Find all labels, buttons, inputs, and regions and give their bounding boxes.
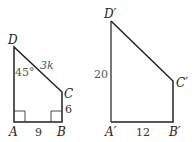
vertex-label-a: A <box>8 125 18 139</box>
side-label-cd: 3k <box>40 59 54 72</box>
figure-abcd: D C A B 45° 3k 6 9 <box>7 33 73 139</box>
figure-abcd-prime: D′ C′ A′ B′ 20 12 <box>94 7 188 139</box>
right-angle-marker-b <box>51 111 62 122</box>
vertex-label-b: B <box>56 125 66 139</box>
angle-label-d: 45° <box>15 66 35 79</box>
vertex-label-c-prime: C′ <box>176 76 188 90</box>
right-angle-marker-a <box>14 111 25 122</box>
vertex-label-d: D <box>7 33 18 47</box>
side-label-ad-prime: 20 <box>94 68 108 81</box>
side-label-ab: 9 <box>35 126 42 139</box>
side-label-ab-prime: 12 <box>136 126 150 139</box>
side-label-bc: 6 <box>65 103 72 116</box>
similar-quadrilaterals-diagram: D C A B 45° 3k 6 9 D′ C′ A′ B′ 20 12 <box>0 0 196 142</box>
vertex-label-c: C <box>64 87 73 101</box>
vertex-label-b-prime: B′ <box>168 125 181 139</box>
sides-ab-bc-cd-prime <box>111 21 173 122</box>
vertex-label-d-prime: D′ <box>103 7 117 21</box>
vertex-label-a-prime: A′ <box>104 125 117 139</box>
